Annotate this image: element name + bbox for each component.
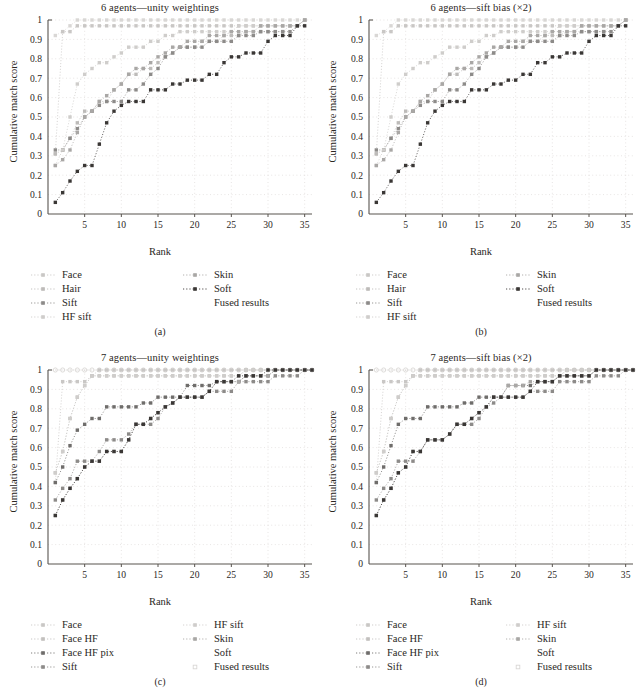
svg-text:0.1: 0.1	[30, 539, 42, 550]
svg-text:0.3: 0.3	[351, 150, 363, 161]
svg-text:1: 1	[358, 364, 363, 375]
svg-text:5: 5	[403, 569, 408, 580]
legend-item-face-hf[interactable]: Face HF	[355, 632, 491, 646]
legend-item-sift[interactable]: Sift	[30, 296, 168, 310]
legend-item-fused-results[interactable]: Fused results	[505, 660, 641, 674]
legend-marker-sift-icon	[30, 298, 56, 308]
svg-text:0.5: 0.5	[30, 461, 42, 472]
legend-item-face[interactable]: Face	[30, 618, 168, 632]
legend-c: FaceFace HFFace HF pixSiftHF siftSkinSof…	[0, 618, 320, 674]
chart-svg-c: 00.10.20.30.40.50.60.70.80.9151015202530…	[0, 364, 320, 586]
legend-label: Fused results	[214, 298, 269, 309]
legend-label: Sift	[62, 662, 77, 673]
svg-text:20: 20	[511, 219, 521, 230]
svg-text:10: 10	[117, 219, 127, 230]
svg-text:0.4: 0.4	[30, 481, 42, 492]
legend-marker-fused-icon	[182, 298, 208, 308]
legend-marker-face_hf-icon	[30, 634, 56, 644]
legend-marker-hf_sift-icon	[30, 312, 56, 322]
svg-text:20: 20	[190, 569, 200, 580]
legend-label: Fused results	[537, 662, 592, 673]
legend-item-skin[interactable]: Skin	[182, 632, 320, 646]
legend-marker-hair-icon	[30, 284, 56, 294]
chart-title-a: 6 agents—unity weightings	[0, 2, 320, 13]
legend-item-face-hf-pix[interactable]: Face HF pix	[30, 646, 168, 660]
svg-text:0.2: 0.2	[351, 170, 363, 181]
legend-item-skin[interactable]: Skin	[182, 268, 320, 282]
svg-text:0.7: 0.7	[30, 423, 42, 434]
svg-text:0.8: 0.8	[351, 403, 363, 414]
chart-title-b: 6 agents—sift bias (×2)	[321, 2, 641, 13]
legend-marker-fused-icon	[182, 662, 208, 672]
legend-label: Sift	[387, 298, 402, 309]
plot-area-b: 00.10.20.30.40.50.60.70.80.9151015202530…	[321, 14, 641, 236]
legend-label: Soft	[214, 284, 232, 295]
legend-item-sift[interactable]: Sift	[30, 660, 168, 674]
panel-b: 6 agents—sift bias (×2) 00.10.20.30.40.5…	[321, 0, 641, 350]
legend-column-1: FaceFace HFFace HF pixSift	[0, 618, 168, 674]
svg-text:10: 10	[438, 219, 448, 230]
legend-item-hf-sift[interactable]: HF sift	[30, 310, 168, 324]
legend-item-soft[interactable]: Soft	[182, 282, 320, 296]
svg-text:25: 25	[227, 219, 237, 230]
svg-text:0.5: 0.5	[30, 111, 42, 122]
panel-d: 7 agents—sift bias (×2) 00.10.20.30.40.5…	[321, 350, 641, 700]
legend-label: Hair	[62, 284, 81, 295]
legend-item-face[interactable]: Face	[355, 268, 491, 282]
legend-item-face[interactable]: Face	[355, 618, 491, 632]
legend-item-soft[interactable]: Soft	[505, 646, 641, 660]
legend-label: Soft	[214, 648, 232, 659]
legend-item-face[interactable]: Face	[30, 268, 168, 282]
legend-column-1: FaceHairSiftHF sift	[321, 268, 491, 324]
legend-item-fused-results[interactable]: Fused results	[182, 660, 320, 674]
legend-marker-hf_sift-icon	[355, 312, 381, 322]
svg-text:0: 0	[37, 208, 42, 219]
legend-item-soft[interactable]: Soft	[505, 282, 641, 296]
svg-text:0.9: 0.9	[30, 384, 42, 395]
legend-marker-soft-icon	[182, 648, 208, 658]
grid-lines	[48, 370, 312, 564]
series-hf-sift	[54, 368, 314, 474]
legend-marker-soft-icon	[505, 284, 531, 294]
panel-label-a: (a)	[0, 326, 320, 337]
legend-item-fused-results[interactable]: Fused results	[505, 296, 641, 310]
series-face	[54, 368, 314, 484]
plot-area-a: 00.10.20.30.40.50.60.70.80.9151015202530…	[0, 14, 320, 236]
legend-item-skin[interactable]: Skin	[505, 268, 641, 282]
legend-item-hf-sift[interactable]: HF sift	[355, 310, 491, 324]
svg-text:30: 30	[584, 219, 594, 230]
series-fused-results	[375, 18, 628, 37]
legend-item-hf-sift[interactable]: HF sift	[505, 618, 641, 632]
svg-text:0: 0	[358, 208, 363, 219]
svg-text:35: 35	[621, 569, 631, 580]
legend-marker-skin-icon	[182, 634, 208, 644]
svg-text:0.2: 0.2	[30, 170, 42, 181]
legend-item-soft[interactable]: Soft	[182, 646, 320, 660]
legend-item-hair[interactable]: Hair	[30, 282, 168, 296]
legend-item-face-hf-pix[interactable]: Face HF pix	[355, 646, 491, 660]
legend-item-sift[interactable]: Sift	[355, 660, 491, 674]
legend-label: Skin	[537, 634, 556, 645]
legend-item-sift[interactable]: Sift	[355, 296, 491, 310]
svg-text:20: 20	[190, 219, 200, 230]
svg-text:0.3: 0.3	[30, 150, 42, 161]
legend-marker-fused-icon	[505, 298, 531, 308]
svg-text:0.1: 0.1	[351, 539, 363, 550]
legend-item-face-hf[interactable]: Face HF	[30, 632, 168, 646]
panel-label-c: (c)	[0, 676, 320, 687]
legend-label: Hair	[387, 284, 406, 295]
series-face	[375, 18, 628, 155]
legend-item-hair[interactable]: Hair	[355, 282, 491, 296]
legend-d: FaceFace HFFace HF pixSiftHF siftSkinSof…	[321, 618, 641, 674]
svg-text:0.1: 0.1	[30, 189, 42, 200]
svg-text:0: 0	[358, 558, 363, 569]
series-hair	[54, 18, 307, 155]
x-axis-label-c: Rank	[0, 596, 320, 607]
legend-label: Sift	[387, 662, 402, 673]
legend-label: Sift	[62, 298, 77, 309]
svg-text:25: 25	[227, 569, 237, 580]
svg-text:0.9: 0.9	[351, 34, 363, 45]
legend-item-hf-sift[interactable]: HF sift	[182, 618, 320, 632]
legend-item-skin[interactable]: Skin	[505, 632, 641, 646]
legend-item-fused-results[interactable]: Fused results	[182, 296, 320, 310]
